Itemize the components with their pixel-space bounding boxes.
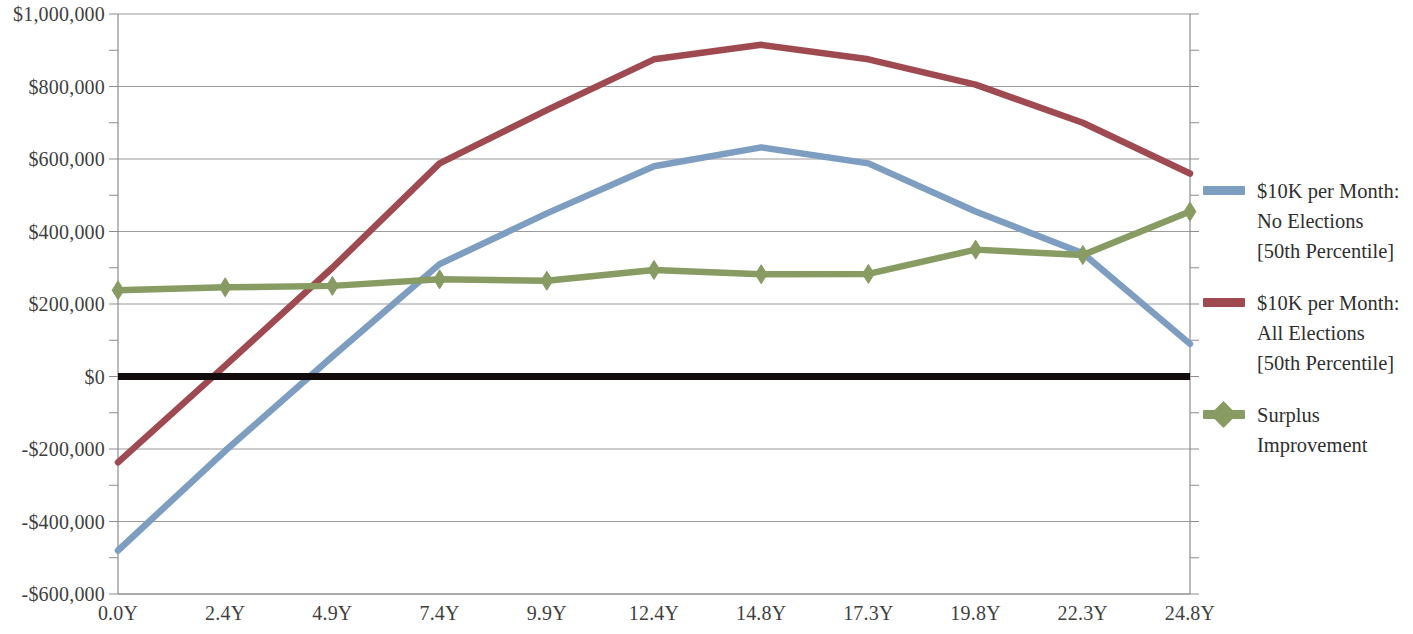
y-axis-tick-label: $800,000	[28, 75, 105, 98]
x-axis-tick-label: 19.8Y	[950, 602, 1000, 625]
x-axis: 0.0Y2.4Y4.9Y7.4Y9.9Y12.4Y14.8Y17.3Y19.8Y…	[118, 600, 1190, 634]
series-marker-2	[327, 276, 339, 295]
x-axis-tick-label: 12.4Y	[629, 602, 679, 625]
plot-svg	[118, 14, 1190, 594]
legend-line-swatch	[1203, 186, 1245, 195]
x-axis-tick-label: 17.3Y	[843, 602, 893, 625]
y-axis-tick-label: -$200,000	[22, 438, 105, 461]
series-marker-2	[648, 260, 660, 279]
y-axis-tick-label: $1,000,000	[13, 3, 105, 26]
x-axis-tick-label: 24.8Y	[1165, 602, 1215, 625]
x-axis-tick-label: 14.8Y	[736, 602, 786, 625]
chart-legend: $10K per Month: No Elections [50th Perce…	[1203, 176, 1413, 482]
x-axis-tick-label: 2.4Y	[205, 602, 245, 625]
series-line-0	[118, 147, 1190, 550]
series-marker-2	[863, 264, 875, 283]
y-axis-tick-label: $600,000	[28, 148, 105, 171]
legend-label: $10K per Month: All Elections [50th Perc…	[1257, 288, 1399, 378]
series-marker-2	[970, 240, 982, 259]
legend-entry[interactable]: $10K per Month: All Elections [50th Perc…	[1203, 288, 1413, 378]
x-axis-tick-label: 7.4Y	[419, 602, 459, 625]
y-axis-tick-label: $200,000	[28, 293, 105, 316]
legend-entry[interactable]: Surplus Improvement	[1203, 400, 1413, 460]
legend-label: Surplus Improvement	[1257, 400, 1367, 460]
series-marker-2	[434, 270, 446, 289]
legend-entry[interactable]: $10K per Month: No Elections [50th Perce…	[1203, 176, 1413, 266]
legend-swatch	[1203, 176, 1247, 204]
y-axis: -$600,000-$400,000-$200,000$0$200,000$40…	[0, 0, 105, 634]
series-marker-2	[1184, 202, 1196, 221]
y-axis-tick-label: -$400,000	[22, 510, 105, 533]
x-axis-tick-label: 22.3Y	[1058, 602, 1108, 625]
plot-area	[118, 14, 1190, 594]
y-axis-tick-label: $400,000	[28, 220, 105, 243]
x-axis-tick-label: 0.0Y	[98, 602, 138, 625]
y-axis-tick-label: -$600,000	[22, 583, 105, 606]
series-marker-2	[112, 281, 124, 300]
legend-line-swatch	[1203, 298, 1245, 307]
x-axis-tick-label: 4.9Y	[312, 602, 352, 625]
y-axis-tick-label: $0	[85, 365, 105, 388]
legend-diamond-marker-icon	[1210, 401, 1237, 428]
legend-swatch	[1203, 288, 1247, 316]
legend-swatch	[1203, 400, 1247, 428]
chart-container: -$600,000-$400,000-$200,000$0$200,000$40…	[0, 0, 1413, 634]
legend-label: $10K per Month: No Elections [50th Perce…	[1257, 176, 1399, 266]
x-axis-tick-label: 9.9Y	[527, 602, 567, 625]
series-marker-2	[755, 265, 767, 284]
series-marker-2	[541, 271, 553, 290]
series-marker-2	[219, 278, 231, 297]
series-layer	[112, 45, 1196, 551]
